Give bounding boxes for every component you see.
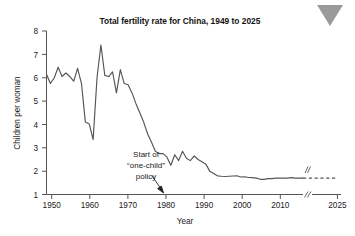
y-tick-label-3: 3: [33, 144, 38, 153]
chart-container: Total fertility rate for China, 1949 to …: [0, 0, 355, 236]
series-break-marker: [304, 166, 312, 174]
annotation-arrow-head: [158, 186, 164, 193]
y-tick-label-4: 4: [33, 121, 38, 130]
y-tick-label-1: 1: [33, 191, 38, 200]
y-tick-label-6: 6: [33, 74, 38, 83]
x-axis-ticks: 1950 1960 1970 1980 1990 2000 2010 2025: [43, 195, 347, 211]
x-axis-label: Year: [177, 217, 194, 226]
x-tick-label-1980: 1980: [157, 201, 176, 210]
annotation-line-3: policy: [136, 172, 156, 181]
annotation-one-child-policy: Start of “one-child” policy: [127, 150, 165, 193]
x-tick-label-2000: 2000: [233, 201, 252, 210]
x-tick-label-1960: 1960: [81, 201, 100, 210]
y-tick-label-5: 5: [33, 97, 38, 106]
y-tick-label-2: 2: [33, 167, 38, 176]
annotation-line-2: “one-child”: [127, 161, 165, 170]
fertility-rate-line-chart: Total fertility rate for China, 1949 to …: [0, 0, 355, 236]
chart-title: Total fertility rate for China, 1949 to …: [100, 16, 261, 26]
y-axis-ticks: 1 2 3 4 5 6 7 8: [33, 27, 46, 200]
x-tick-label-1950: 1950: [43, 201, 62, 210]
x-tick-label-1990: 1990: [195, 201, 214, 210]
x-tick-label-2025: 2025: [328, 201, 347, 210]
triangle-down-icon: [317, 5, 343, 26]
annotation-line-1: Start of: [133, 150, 160, 159]
x-tick-label-2010: 2010: [271, 201, 290, 210]
x-tick-label-1970: 1970: [119, 201, 138, 210]
y-axis-label: Children per woman: [13, 76, 22, 150]
x-axis-break-marker: [303, 192, 312, 198]
y-tick-label-7: 7: [33, 51, 38, 60]
data-line-fertility-rate: [47, 45, 304, 179]
y-tick-label-8: 8: [33, 27, 38, 36]
